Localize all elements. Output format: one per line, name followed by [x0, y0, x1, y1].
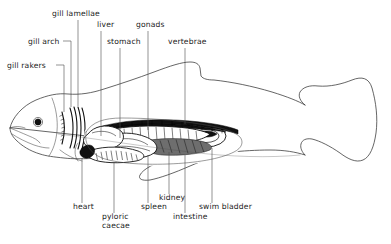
- operculum-path: [49, 98, 57, 156]
- gill-structures: [59, 107, 85, 149]
- leader-gill-rakers: [56, 65, 64, 112]
- label-kidney: kidney: [159, 193, 186, 202]
- pectoral-fin-path: [60, 150, 82, 161]
- label-gonads: gonads: [136, 20, 165, 29]
- label-liver: liver: [97, 20, 115, 29]
- label-intestine: intestine: [173, 212, 208, 221]
- label-spleen: spleen: [141, 202, 167, 211]
- leader-lines: [56, 20, 212, 213]
- label-swim-bladder: swim bladder: [199, 202, 253, 211]
- label-pyloric-caecae-line2: caecae: [102, 221, 130, 230]
- label-gill-arch: gill arch: [28, 37, 60, 46]
- label-stomach: stomach: [107, 37, 141, 46]
- label-heart: heart: [73, 202, 94, 211]
- eye-icon: [35, 119, 41, 125]
- label-gill-lamellae: gill lamellae: [52, 9, 100, 18]
- gill-arch-arc-1: [70, 108, 73, 148]
- diagram-canvas: gill lamellae gill arch gill rakers live…: [0, 0, 391, 244]
- label-pyloric-caecae-line1: pyloric: [102, 212, 129, 221]
- label-vertebrae: vertebrae: [168, 37, 207, 46]
- gill-lamellae-arc-1: [74, 107, 77, 148]
- upper-lip-path: [10, 127, 25, 129]
- pericardium-path: [75, 143, 78, 161]
- internal-organ-mass: [58, 118, 300, 164]
- caudal-fin-path: [299, 78, 377, 161]
- label-gill-rakers: gill rakers: [7, 61, 46, 70]
- fish-anatomy-diagram: gill lamellae gill arch gill rakers live…: [0, 0, 391, 244]
- gill-lamellae-arc-2: [78, 107, 81, 149]
- ventral-peduncle-path: [232, 150, 305, 155]
